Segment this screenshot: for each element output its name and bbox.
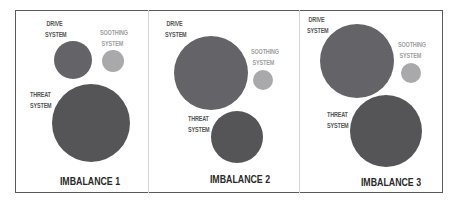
soothing-label-line2: SYSTEM [251,57,279,68]
soothing-label-line2: SYSTEM [100,38,128,49]
drive-label-line2: SYSTEM [307,25,329,36]
threat-label-line1: THREAT [327,109,349,120]
drive-system-circle [320,24,394,98]
soothing-system-label: SOOTHING SYSTEM [251,46,279,68]
threat-label-line1: THREAT [188,113,210,124]
panel-divider-1 [148,10,149,193]
drive-label-line2: SYSTEM [165,29,187,40]
drive-system-label: DRIVE SYSTEM [45,18,67,40]
caption-imbalance-3: IMBALANCE 3 [343,176,439,188]
soothing-label-line1: SOOTHING [398,39,426,50]
threat-system-label: THREAT SYSTEM [327,109,349,131]
drive-system-label: DRIVE SYSTEM [165,18,187,40]
threat-system-circle [52,84,130,162]
soothing-system-label: SOOTHING SYSTEM [100,27,128,49]
drive-system-circle [54,41,92,79]
threat-label-line2: SYSTEM [188,124,210,135]
caption-imbalance-2: IMBALANCE 2 [192,173,288,185]
drive-system-label: DRIVE SYSTEM [307,14,329,36]
drive-label-line2: SYSTEM [45,29,67,40]
threat-system-label: THREAT SYSTEM [30,89,52,111]
soothing-system-circle [253,70,273,90]
soothing-label-line1: SOOTHING [100,27,128,38]
soothing-system-label: SOOTHING SYSTEM [398,39,426,61]
soothing-label-line1: SOOTHING [251,46,279,57]
threat-label-line1: THREAT [30,89,52,100]
drive-label-line1: DRIVE [307,14,329,25]
drive-label-line1: DRIVE [45,18,67,29]
threat-system-label: THREAT SYSTEM [188,113,210,135]
soothing-system-circle [401,63,421,83]
caption-imbalance-1: IMBALANCE 1 [42,175,138,187]
soothing-system-circle [102,50,124,72]
threat-label-line2: SYSTEM [327,120,349,131]
panel-divider-2 [299,10,300,193]
drive-system-circle [174,36,248,110]
threat-label-line2: SYSTEM [30,100,52,111]
drive-label-line1: DRIVE [165,18,187,29]
threat-system-circle [211,111,263,163]
soothing-label-line2: SYSTEM [398,50,426,61]
threat-system-circle [350,95,422,167]
